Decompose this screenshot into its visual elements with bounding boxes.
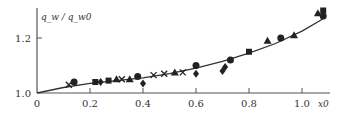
square-marker bbox=[246, 49, 252, 55]
plot-area: 00.20.40.60.81.01.01.2x0q_w / q_w0 bbox=[0, 0, 350, 122]
y-tick-label: 1.2 bbox=[15, 33, 31, 44]
diamond-marker bbox=[193, 70, 199, 78]
square-marker bbox=[320, 8, 326, 14]
x-tick-label: 0.6 bbox=[188, 98, 204, 109]
diamond-marker bbox=[98, 78, 104, 86]
y-tick-label: 1.0 bbox=[15, 88, 31, 99]
circle-marker bbox=[193, 62, 200, 69]
x-tick-label: 0.4 bbox=[135, 98, 151, 109]
x-tick-label: 0.8 bbox=[241, 98, 257, 109]
x-tick-label: 0.2 bbox=[82, 98, 98, 109]
square-marker bbox=[92, 79, 98, 85]
x-tick-label: 1.0 bbox=[294, 98, 310, 109]
y-axis-label: q_w / q_w0 bbox=[41, 12, 92, 23]
cross-marker bbox=[151, 72, 157, 78]
fit-curve bbox=[37, 19, 323, 93]
cross-marker bbox=[180, 69, 186, 75]
square-marker bbox=[106, 78, 112, 84]
circle-marker bbox=[134, 73, 141, 80]
triangle-marker bbox=[264, 37, 272, 44]
triangle-marker bbox=[290, 31, 298, 38]
diamond-marker bbox=[140, 79, 146, 87]
circle-marker bbox=[277, 35, 284, 42]
chart: 00.20.40.60.81.01.01.2x0q_w / q_w0 bbox=[0, 0, 350, 122]
circle-marker bbox=[227, 57, 234, 64]
x-axis-label: x0 bbox=[318, 99, 329, 109]
x-tick-label: 0 bbox=[34, 98, 40, 109]
